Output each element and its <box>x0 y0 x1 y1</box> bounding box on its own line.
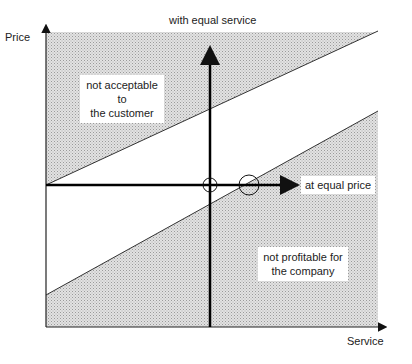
y-axis-label: Price <box>5 31 30 43</box>
vertical-arrow-label: with equal service <box>169 14 256 26</box>
x-axis-label: Service <box>347 335 384 347</box>
horizontal-arrow-label: at equal price <box>301 176 375 194</box>
lower-region-label: not profitable for the company <box>258 247 348 281</box>
upper-region-label: not acceptable to the customer <box>80 75 164 123</box>
